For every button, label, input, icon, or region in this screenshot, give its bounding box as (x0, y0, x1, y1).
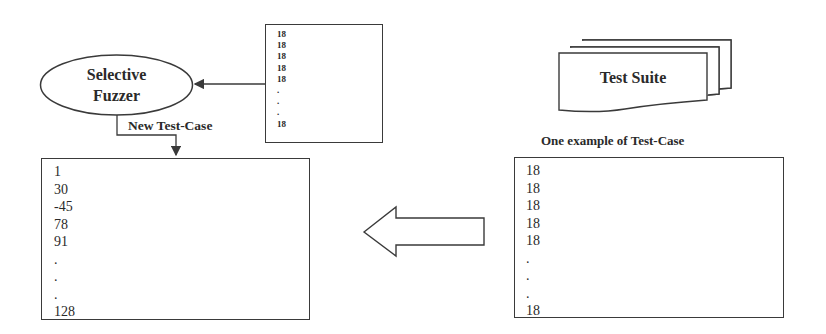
new-test-case-line: . (54, 251, 309, 269)
example-line: 18 (526, 197, 783, 215)
seed-line: 18 (277, 63, 382, 74)
new-test-case-line: 91 (54, 233, 309, 251)
seed-line: . (277, 96, 382, 107)
seed-line: 18 (277, 74, 382, 85)
example-test-case-lines: 18 18 18 18 18 . . . 18 (526, 162, 783, 320)
seed-line: 18 (277, 29, 382, 40)
new-test-case-line: . (54, 268, 309, 286)
fuzzer-label-line1: Selective (40, 64, 193, 85)
new-test-case-line: . (54, 286, 309, 304)
example-line: 18 (526, 232, 783, 250)
new-test-case-line: 1 (54, 163, 309, 181)
seed-line: . (277, 107, 382, 118)
example-line: . (526, 267, 783, 285)
new-test-case-line: 128 (54, 303, 309, 321)
new-test-case-lines: 1 30 -45 78 91 . . . 128 (54, 163, 309, 321)
transform-arrow-icon (364, 207, 484, 256)
example-line: . (526, 285, 783, 303)
example-line: 18 (526, 162, 783, 180)
example-caption: One example of Test-Case (541, 133, 684, 149)
seed-line: 18 (277, 40, 382, 51)
seed-line: 18 (277, 119, 382, 130)
seed-line: . (277, 85, 382, 96)
new-test-case-box: 1 30 -45 78 91 . . . 128 (41, 158, 310, 320)
test-suite-label: Test Suite (559, 69, 707, 87)
new-test-case-line: 30 (54, 181, 309, 199)
seed-line: 18 (277, 51, 382, 62)
example-line: . (526, 250, 783, 268)
example-line: 18 (526, 215, 783, 233)
new-test-case-line: 78 (54, 216, 309, 234)
new-test-case-label: New Test-Case (128, 118, 212, 134)
selective-fuzzer-label: Selective Fuzzer (40, 64, 193, 106)
new-test-case-line: -45 (54, 198, 309, 216)
seed-test-case-lines: 18 18 18 18 18 . . . 18 (277, 29, 382, 130)
example-line: 18 (526, 302, 783, 320)
example-line: 18 (526, 180, 783, 198)
example-test-case-box: 18 18 18 18 18 . . . 18 (514, 157, 784, 318)
fuzzer-label-line2: Fuzzer (40, 85, 193, 106)
seed-test-case-box: 18 18 18 18 18 . . . 18 (265, 24, 383, 143)
